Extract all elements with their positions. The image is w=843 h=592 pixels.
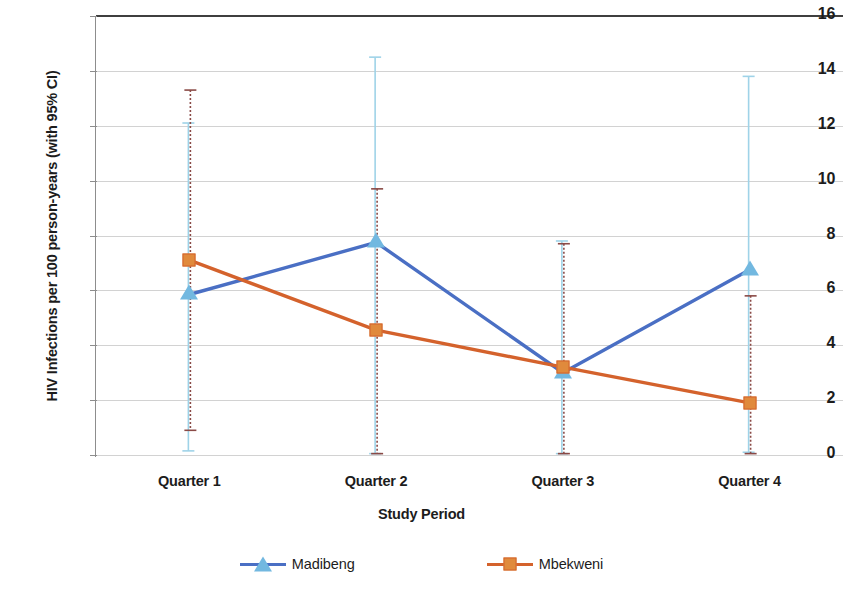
data-point-marker xyxy=(183,254,196,267)
data-point-marker xyxy=(556,361,569,374)
legend-label: Mbekweni xyxy=(539,556,603,572)
data-point-marker xyxy=(370,324,383,337)
legend-item-madibeng[interactable]: Madibeng xyxy=(240,556,355,572)
legend-item-mbekweni[interactable]: Mbekweni xyxy=(487,556,603,572)
legend-marker-icon xyxy=(240,556,286,572)
data-point-marker xyxy=(180,285,198,300)
series-line-madibeng xyxy=(189,242,749,372)
data-point-marker xyxy=(367,233,385,248)
chart-legend: MadibengMbekweni xyxy=(0,556,843,572)
series-plot-layer xyxy=(0,0,843,592)
series-line-mbekweni xyxy=(189,260,749,403)
data-point-marker xyxy=(741,260,759,275)
legend-label: Madibeng xyxy=(292,556,355,572)
legend-marker-icon xyxy=(487,556,533,572)
data-point-marker xyxy=(743,396,756,409)
x-axis-title: Study Period xyxy=(0,506,843,522)
line-chart: HIV Infections per 100 person-years (wit… xyxy=(0,0,843,592)
